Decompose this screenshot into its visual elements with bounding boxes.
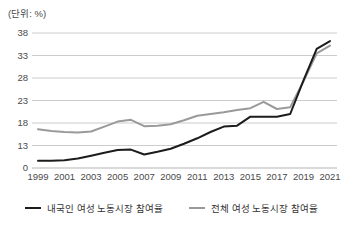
x-axis-tick-label: 2015 [236, 172, 264, 182]
x-axis-tick-label: 2007 [130, 172, 158, 182]
x-axis-tick-label: 2021 [316, 172, 343, 182]
y-axis-tick-label: 33 [4, 51, 28, 61]
y-axis-tick-label: 28 [4, 73, 28, 83]
legend-item-domestic: 내국인 여성 노동시장 참여율 [25, 201, 163, 215]
x-axis-tick-label: 2017 [263, 172, 291, 182]
y-axis-tick-label: 18 [4, 118, 28, 128]
x-axis-tick-label: 2009 [157, 172, 185, 182]
x-axis-tick-label: 2003 [77, 172, 105, 182]
x-axis-tick-label: 2019 [289, 172, 317, 182]
y-axis-tick-label: 13 [4, 141, 28, 151]
x-axis-tick-label: 2013 [210, 172, 238, 182]
x-axis-tick-label: 1999 [24, 172, 52, 182]
legend: 내국인 여성 노동시장 참여율 전체 여성 노동시장 참여율 [0, 201, 343, 215]
x-axis-tick-label: 2005 [104, 172, 132, 182]
series-line-total [38, 46, 330, 133]
x-axis-tick-label: 2011 [183, 172, 211, 182]
total-line-swatch-icon [189, 207, 205, 209]
legend-label-domestic: 내국인 여성 노동시장 참여율 [47, 201, 163, 215]
y-axis-tick-label: 23 [4, 96, 28, 106]
chart-container: (단위: %) 3833282318130 199920012003200520… [0, 0, 343, 227]
domestic-line-swatch-icon [25, 207, 41, 209]
plot-area [0, 0, 343, 227]
legend-label-total: 전체 여성 노동시장 참여율 [211, 201, 318, 215]
legend-item-total: 전체 여성 노동시장 참여율 [189, 201, 318, 215]
x-axis-tick-label: 2001 [51, 172, 79, 182]
y-axis-tick-label: 38 [4, 28, 28, 38]
